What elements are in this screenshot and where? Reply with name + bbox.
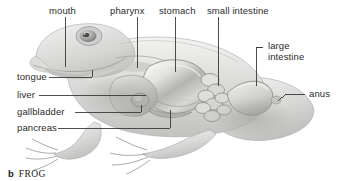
label-large-intestine-line2: intestine <box>268 51 304 62</box>
caption-word: FROG <box>19 169 46 179</box>
frog-hind-toes <box>110 137 150 174</box>
body-shading-b <box>212 98 292 138</box>
body-shading-a <box>78 74 162 118</box>
frog-anatomy-figure: mouth pharynx stomach small intestine la… <box>0 0 339 181</box>
label-stomach: stomach <box>159 6 196 17</box>
frog-eye-highlight <box>83 33 85 35</box>
frog-foreleg <box>54 122 101 159</box>
label-liver: liver <box>17 90 35 101</box>
label-anus: anus <box>309 89 330 100</box>
frog-pupil <box>83 33 90 37</box>
caption-letter: b <box>8 168 14 179</box>
label-large-intestine-line1: large <box>268 40 290 51</box>
label-mouth: mouth <box>49 6 76 17</box>
label-pharynx: pharynx <box>110 6 145 17</box>
label-pancreas: pancreas <box>17 123 57 134</box>
figure-caption: bFROG <box>8 163 46 181</box>
label-small-intestine: small intestine <box>207 6 269 17</box>
label-large-intestine: large intestine <box>268 41 330 62</box>
frog-illustration <box>0 0 339 181</box>
label-gallbladder: gallbladder <box>17 107 65 118</box>
label-tongue: tongue <box>17 72 47 83</box>
